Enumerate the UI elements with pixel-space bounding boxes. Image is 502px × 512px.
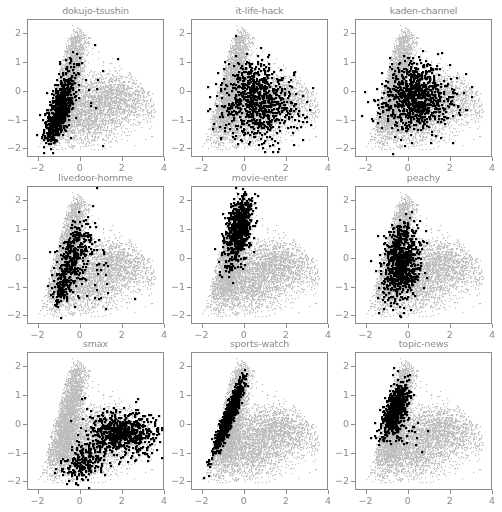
y-tick-mark xyxy=(351,200,355,201)
y-tick-label: 0 xyxy=(327,85,349,96)
y-tick-mark xyxy=(187,395,191,396)
plot-area xyxy=(191,19,328,157)
y-tick-mark xyxy=(23,120,27,121)
y-tick-mark xyxy=(187,200,191,201)
y-tick-label: −1 xyxy=(0,114,21,125)
y-tick-mark xyxy=(23,395,27,396)
plot-area xyxy=(27,19,164,157)
y-tick-mark xyxy=(351,424,355,425)
y-tick-mark xyxy=(23,287,27,288)
y-tick-label: −1 xyxy=(327,281,349,292)
y-tick-mark xyxy=(187,287,191,288)
y-tick-label: −1 xyxy=(163,281,185,292)
y-tick-label: 2 xyxy=(327,194,349,205)
x-tick-label: 2 xyxy=(110,495,134,506)
scatter-points xyxy=(192,353,329,491)
y-tick-mark xyxy=(23,33,27,34)
plot-area xyxy=(27,186,164,324)
y-tick-label: −1 xyxy=(327,447,349,458)
x-tick-mark xyxy=(80,324,81,328)
y-tick-label: 0 xyxy=(0,418,21,429)
x-tick-mark xyxy=(286,490,287,494)
x-tick-mark xyxy=(450,324,451,328)
y-tick-mark xyxy=(23,315,27,316)
y-tick-label: 2 xyxy=(163,194,185,205)
y-tick-label: 2 xyxy=(327,27,349,38)
y-tick-label: −2 xyxy=(327,309,349,320)
x-tick-mark xyxy=(286,324,287,328)
y-tick-mark xyxy=(187,424,191,425)
y-tick-label: −1 xyxy=(163,114,185,125)
y-tick-mark xyxy=(23,200,27,201)
x-tick-mark xyxy=(202,490,203,494)
x-tick-mark xyxy=(122,490,123,494)
x-tick-label: 4 xyxy=(316,495,340,506)
y-tick-label: 1 xyxy=(163,389,185,400)
plot-area xyxy=(355,19,492,157)
panel-title: livedoor-homme xyxy=(27,172,164,183)
y-tick-label: −2 xyxy=(0,309,21,320)
x-tick-label: 2 xyxy=(438,495,462,506)
plot-area xyxy=(355,186,492,324)
y-tick-mark xyxy=(351,120,355,121)
y-tick-label: 1 xyxy=(0,223,21,234)
scatter-points xyxy=(28,353,165,491)
panel-title: movie-enter xyxy=(191,172,328,183)
x-tick-mark xyxy=(492,490,493,494)
x-tick-mark xyxy=(450,157,451,161)
y-tick-label: 0 xyxy=(163,252,185,263)
panel-title: dokujo-tsushin xyxy=(27,5,164,16)
x-tick-mark xyxy=(244,157,245,161)
y-tick-label: 2 xyxy=(327,360,349,371)
y-tick-label: 0 xyxy=(327,252,349,263)
x-tick-mark xyxy=(38,157,39,161)
x-tick-mark xyxy=(366,157,367,161)
x-tick-label: 4 xyxy=(152,495,176,506)
x-tick-mark xyxy=(80,490,81,494)
y-tick-mark xyxy=(23,366,27,367)
y-tick-label: −2 xyxy=(163,142,185,153)
y-tick-mark xyxy=(351,287,355,288)
y-tick-label: 1 xyxy=(327,389,349,400)
x-tick-label: −2 xyxy=(26,495,50,506)
y-tick-mark xyxy=(187,120,191,121)
x-tick-mark xyxy=(328,157,329,161)
scatter-points xyxy=(28,20,165,158)
x-tick-mark xyxy=(492,324,493,328)
y-tick-mark xyxy=(187,453,191,454)
scatter-points xyxy=(28,187,165,325)
scatter-points xyxy=(192,187,329,325)
y-tick-label: 2 xyxy=(0,27,21,38)
y-tick-label: −2 xyxy=(0,475,21,486)
x-tick-label: 0 xyxy=(232,495,256,506)
x-tick-mark xyxy=(122,157,123,161)
x-tick-mark xyxy=(408,490,409,494)
panel-title: it-life-hack xyxy=(191,5,328,16)
x-tick-mark xyxy=(244,490,245,494)
y-tick-mark xyxy=(351,453,355,454)
x-tick-mark xyxy=(328,324,329,328)
y-tick-mark xyxy=(351,395,355,396)
x-tick-label: 2 xyxy=(274,495,298,506)
y-tick-mark xyxy=(187,366,191,367)
y-tick-label: 0 xyxy=(0,85,21,96)
y-tick-mark xyxy=(187,62,191,63)
scatter-points xyxy=(356,187,493,325)
y-tick-mark xyxy=(23,258,27,259)
y-tick-label: −2 xyxy=(327,142,349,153)
y-tick-mark xyxy=(187,315,191,316)
y-tick-mark xyxy=(351,229,355,230)
x-tick-mark xyxy=(244,324,245,328)
y-tick-label: 1 xyxy=(163,223,185,234)
x-tick-mark xyxy=(366,324,367,328)
panel-title: kaden-channel xyxy=(355,5,492,16)
x-tick-mark xyxy=(366,490,367,494)
y-tick-label: 0 xyxy=(0,252,21,263)
y-tick-mark xyxy=(351,258,355,259)
y-tick-mark xyxy=(351,91,355,92)
y-tick-label: −1 xyxy=(327,114,349,125)
y-tick-label: −2 xyxy=(327,475,349,486)
y-tick-mark xyxy=(23,148,27,149)
y-tick-mark xyxy=(351,33,355,34)
x-tick-mark xyxy=(450,490,451,494)
